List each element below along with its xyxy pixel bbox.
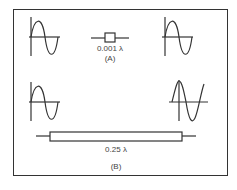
sine-wave bbox=[31, 21, 58, 54]
component-a bbox=[91, 33, 129, 42]
component-b bbox=[36, 132, 196, 141]
part-b-label: (B) bbox=[86, 162, 146, 171]
component-a-length-label: 0.001 λ bbox=[80, 44, 140, 53]
waveform-b-right bbox=[169, 80, 208, 121]
waveform-a-left bbox=[29, 17, 60, 56]
short-component-body bbox=[105, 33, 115, 42]
sine-wave bbox=[31, 86, 58, 119]
sine-wave bbox=[172, 81, 204, 121]
sine-wave bbox=[165, 21, 192, 54]
waveform-b-left bbox=[29, 82, 60, 121]
part-a-label: (A) bbox=[80, 54, 140, 63]
component-b-length-label: 0.25 λ bbox=[86, 145, 146, 154]
long-component-body bbox=[50, 132, 182, 141]
waveform-a-right bbox=[162, 17, 193, 56]
